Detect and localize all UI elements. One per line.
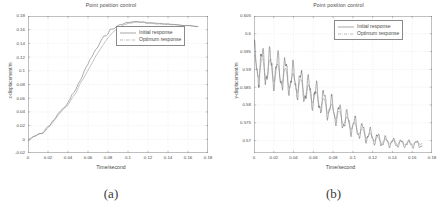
legend-a: Initial response Optimum response — [116, 26, 185, 46]
legend-line-solid-icon — [120, 30, 136, 36]
y-tick-label: 0.57 — [227, 138, 251, 143]
legend-label-optimum-b: Optimum response — [357, 30, 399, 37]
y-tick-label: 0.18 — [1, 13, 25, 18]
x-tick-label: 0.1 — [345, 155, 361, 160]
y-tick-label: 0.14 — [1, 41, 25, 46]
x-axis-label-a: Time/second — [0, 164, 222, 170]
x-tick-label: 0.08 — [100, 155, 116, 160]
x-tick-label: 0.14 — [160, 155, 176, 160]
y-tick-label: 0.585 — [227, 85, 251, 90]
legend-row-initial-b: Initial response — [338, 23, 399, 30]
legend-label-optimum-a: Optimum response — [139, 36, 181, 43]
chart-title-a: Point position control — [0, 2, 222, 8]
x-tick-label: 0.06 — [305, 155, 321, 160]
panel-b: Point position control y-displacement/m … — [222, 0, 445, 204]
chart-title-b: Point position control — [232, 2, 445, 8]
panel-a: Point position control x-displacement/m … — [0, 0, 222, 204]
x-tick-label: 0.18 — [200, 155, 216, 160]
x-tick-label: 0.16 — [404, 155, 420, 160]
x-tick-label: 0 — [246, 155, 262, 160]
x-tick-label: 0.04 — [60, 155, 76, 160]
x-tick-label: 0.12 — [140, 155, 156, 160]
legend-label-initial-a: Initial response — [139, 29, 173, 36]
x-tick-label: 0 — [20, 155, 36, 160]
legend-line-solid-icon — [338, 24, 354, 30]
legend-row-optimum-b: Optimum response — [338, 30, 399, 37]
x-tick-label: 0.14 — [384, 155, 400, 160]
y-tick-label: 0.1 — [1, 68, 25, 73]
legend-row-optimum-a: Optimum response — [120, 36, 181, 43]
x-tick-label: 0.12 — [365, 155, 381, 160]
x-tick-label: 0.02 — [266, 155, 282, 160]
x-tick-label: 0.1 — [120, 155, 136, 160]
legend-label-initial-b: Initial response — [357, 23, 391, 30]
x-tick-label: 0.08 — [325, 155, 341, 160]
y-tick-label: 0.575 — [227, 120, 251, 125]
legend-row-initial-a: Initial response — [120, 29, 181, 36]
legend-b: Initial response Optimum response — [334, 20, 403, 40]
y-tick-label: 0.16 — [1, 27, 25, 32]
y-tick-label: 0.605 — [227, 13, 251, 18]
x-tick-label: 0.16 — [180, 155, 196, 160]
y-tick-label: 0.6 — [227, 31, 251, 36]
y-tick-label: 0.04 — [1, 109, 25, 114]
legend-line-dashdot-icon — [338, 31, 354, 37]
y-tick-label: 0.58 — [227, 102, 251, 107]
y-tick-label: 0.595 — [227, 49, 251, 54]
x-tick-label: 0.04 — [286, 155, 302, 160]
y-tick-label: 0.08 — [1, 82, 25, 87]
figure-container: Point position control x-displacement/m … — [0, 0, 445, 204]
y-tick-label: 0.06 — [1, 96, 25, 101]
y-tick-label: 0 — [1, 137, 25, 142]
caption-b: (b) — [222, 186, 445, 202]
y-tick-label: 0.59 — [227, 67, 251, 72]
y-tick-label: 0.02 — [1, 123, 25, 128]
caption-a: (a) — [0, 186, 222, 202]
x-tick-label: 0.18 — [424, 155, 440, 160]
x-tick-label: 0.02 — [40, 155, 56, 160]
x-axis-label-b: Time/second — [236, 164, 445, 170]
legend-line-dashdot-icon — [120, 37, 136, 43]
y-tick-label: 0.12 — [1, 55, 25, 60]
x-tick-label: 0.06 — [80, 155, 96, 160]
